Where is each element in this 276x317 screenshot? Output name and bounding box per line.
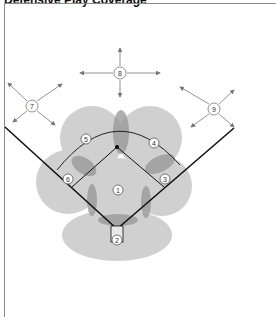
position-marker-4: 4: [149, 138, 159, 148]
position-marker-8: 8: [114, 67, 126, 79]
svg-text:1: 1: [116, 187, 120, 194]
svg-text:4: 4: [152, 140, 156, 147]
position-marker-7: 7: [26, 100, 38, 112]
position-marker-1: 1: [113, 185, 123, 195]
field-diagram: 1 2 3 4 5 6 7 8 9: [0, 0, 276, 317]
svg-text:8: 8: [118, 70, 122, 77]
svg-text:2: 2: [115, 237, 119, 244]
second-base-marker: [115, 145, 118, 148]
svg-text:6: 6: [66, 176, 70, 183]
position-marker-6: 6: [63, 174, 73, 184]
svg-text:3: 3: [163, 176, 167, 183]
position-marker-5: 5: [81, 134, 91, 144]
svg-text:5: 5: [84, 136, 88, 143]
position-marker-2: 2: [112, 235, 122, 245]
svg-text:7: 7: [30, 103, 34, 110]
svg-text:9: 9: [212, 106, 216, 113]
position-marker-3: 3: [160, 174, 170, 184]
position-marker-9: 9: [208, 103, 220, 115]
